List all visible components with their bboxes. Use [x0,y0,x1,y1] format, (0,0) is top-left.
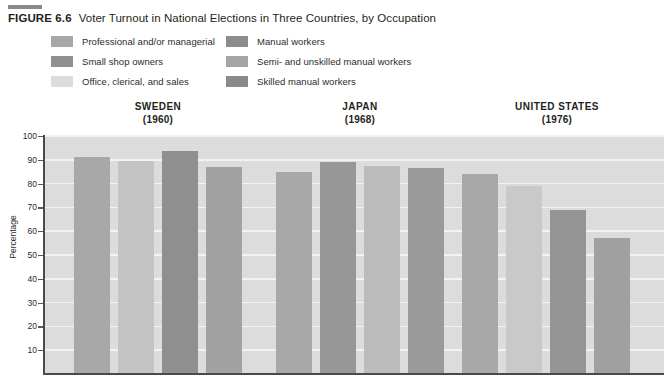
legend-swatch-icon [226,36,248,47]
legend-item-skilled-manual: Skilled manual workers [226,71,411,91]
plot-area [44,136,664,374]
y-axis-tick [38,207,43,208]
y-axis-title: Percentage [8,202,18,272]
legend-item-semi-unskilled: Semi- and unskilled manual workers [226,51,411,71]
legend-label: Semi- and unskilled manual workers [257,56,411,67]
bar [408,168,444,374]
legend-item-professional: Professional and/or managerial [51,31,226,51]
bar [462,174,498,374]
country-headings: SWEDEN (1960) JAPAN (1968) UNITED STATES… [0,100,671,128]
bar [320,162,356,374]
bar [550,210,586,374]
bar [364,166,400,374]
country-year: (1976) [462,113,652,126]
x-axis-line [43,373,664,375]
y-axis-tick-label: 10 [3,345,37,355]
country-year: (1960) [74,113,242,126]
bar [118,161,154,374]
y-axis-tick-label: 40 [3,274,37,284]
bar [162,151,198,374]
country-year: (1968) [276,113,444,126]
y-axis-tick-label: 30 [3,298,37,308]
bar [276,172,312,374]
country-name: UNITED STATES [515,101,599,112]
legend-label: Skilled manual workers [257,76,356,87]
chart-legend: Professional and/or managerial Manual wo… [51,31,411,91]
legend-label: Office, clerical, and sales [82,76,189,87]
page-title: Voter Turnout in National Elections in T… [79,12,436,24]
y-axis-tick [38,136,43,137]
country-name: JAPAN [342,101,377,112]
legend-item-small-shop-owners: Small shop owners [51,51,226,71]
y-axis-tick [38,255,43,256]
bar-series [44,136,664,374]
country-name: SWEDEN [135,101,182,112]
bar [506,186,542,374]
legend-label: Small shop owners [82,56,163,67]
legend-swatch-icon [51,36,73,47]
country-heading-united-states: UNITED STATES (1976) [462,100,652,126]
country-heading-sweden: SWEDEN (1960) [74,100,242,126]
bar [74,157,110,374]
y-axis-tick [38,184,43,185]
legend-swatch-icon [226,56,248,67]
y-axis-tick-label: 80 [3,179,37,189]
y-axis-tick [38,231,43,232]
bar [206,167,242,374]
country-heading-japan: JAPAN (1968) [276,100,444,126]
figure-container: FIGURE 6.6 Voter Turnout in National Ele… [0,0,671,388]
legend-swatch-icon [51,56,73,67]
y-axis-tick [38,160,43,161]
legend-item-manual-workers: Manual workers [226,31,411,51]
y-axis-tick-label: 90 [3,155,37,165]
legend-swatch-icon [51,76,73,87]
y-axis-tick [38,350,43,351]
legend-item-office-clerical: Office, clerical, and sales [51,71,226,91]
legend-swatch-icon [226,76,248,87]
bar [594,238,630,374]
y-axis-tick [38,303,43,304]
y-axis-tick-label: 100 [3,131,37,141]
figure-title-row: FIGURE 6.6 Voter Turnout in National Ele… [8,12,663,24]
y-axis-labels: 102030405060708090100 [0,0,37,388]
legend-label: Professional and/or managerial [82,36,215,47]
y-axis-tick-label: 20 [3,321,37,331]
y-axis-tick [38,326,43,327]
legend-label: Manual workers [257,36,325,47]
y-axis-line [43,135,45,375]
y-axis-tick [38,279,43,280]
